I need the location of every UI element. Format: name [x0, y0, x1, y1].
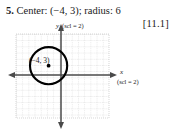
x-axis-scale-label: (scl = 2) — [117, 78, 139, 86]
problem-number: 5. — [6, 5, 14, 16]
grid-lines — [16, 34, 109, 118]
x-axis-arrow-right — [110, 72, 117, 78]
y-axis-arrow-down — [58, 122, 64, 129]
problem-prompt: Center: (−4, 3); radius: 6 — [17, 5, 121, 16]
center-point-label: (−4, 3) — [29, 56, 50, 65]
x-axis-label: x — [119, 68, 124, 76]
problem-statement: 5. Center: (−4, 3); radius: 6 — [6, 5, 166, 17]
coordinate-graph: (−4, 3) y (scl = 2) x (scl = 2) — [0, 22, 173, 131]
y-axis-scale-label: (scl = 2) — [62, 22, 84, 30]
exercise-figure: 5. Center: (−4, 3); radius: 6 [11.1] — [0, 0, 173, 131]
x-axis-arrow-left — [8, 72, 15, 78]
